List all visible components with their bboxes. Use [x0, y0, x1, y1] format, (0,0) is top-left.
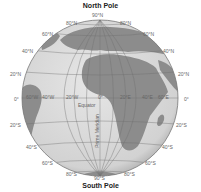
lon-label-60w: 60°W	[26, 94, 38, 100]
lat-label-eq-left: 0°	[14, 96, 19, 102]
south-pole-title: South Pole	[0, 182, 201, 189]
lat-label-60n-right: 60°N	[143, 31, 154, 37]
lat-label-eq-right: 0°	[184, 96, 189, 102]
prime-meridian-label: Prime Meridian	[94, 114, 100, 148]
lat-label-20s-right: 20°S	[176, 122, 187, 128]
lat-label-90n: 90°N	[92, 12, 103, 18]
lon-label-40e: 40°E	[142, 94, 153, 100]
lat-label-20n-left: 20°N	[10, 71, 21, 77]
lat-label-60s-left: 60°S	[42, 160, 53, 166]
lon-label-40w: 40°W	[42, 94, 54, 100]
lat-label-80n-left: 80°N	[66, 20, 77, 26]
lat-label-20n-right: 20°N	[178, 71, 189, 77]
lat-label-80s-left: 80°S	[66, 171, 77, 177]
lat-label-60n-left: 60°N	[42, 31, 53, 37]
lat-label-80n-right: 80°N	[120, 20, 131, 26]
lat-label-40n-right: 40°N	[163, 48, 174, 54]
lat-label-20s-left: 20°S	[10, 122, 21, 128]
equator-label: Equator	[78, 102, 96, 108]
lat-label-60s-right: 60°S	[145, 160, 156, 166]
lat-label-40s-right: 40°S	[162, 144, 173, 150]
lon-label-0: 0°	[98, 94, 103, 100]
lon-label-20e: 20°E	[120, 94, 131, 100]
lat-label-80s-right: 80°S	[124, 171, 135, 177]
lat-label-40n-left: 40°N	[22, 48, 33, 54]
lat-label-90s: 90°S	[94, 175, 105, 181]
lon-label-20w: 20°W	[66, 94, 78, 100]
lat-label-40s-left: 40°S	[26, 144, 37, 150]
lon-label-60e: 60°E	[158, 94, 169, 100]
